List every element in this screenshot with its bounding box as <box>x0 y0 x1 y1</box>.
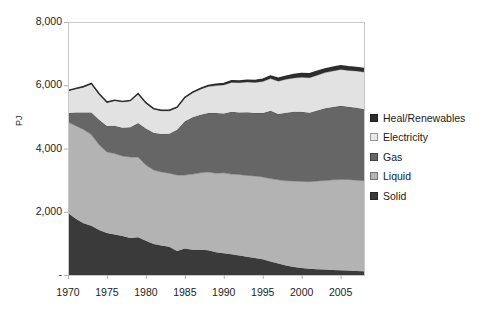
legend-item-electricity[interactable]: Electricity <box>370 128 494 148</box>
y-axis-tick-label: - <box>4 268 62 280</box>
y-axis-tick-label: 2,000 <box>4 205 62 217</box>
legend-item-solid[interactable]: Solid <box>370 186 494 206</box>
legend-item-heal-renewables[interactable]: Heal/Renewables <box>370 108 494 128</box>
x-axis-tick-label: 1985 <box>173 286 196 298</box>
y-axis-tick-label: 6,000 <box>4 78 62 90</box>
legend-swatch-icon <box>370 153 378 161</box>
y-axis-tick-label: 8,000 <box>4 15 62 27</box>
legend-swatch-icon <box>370 172 378 180</box>
legend-item-label: Gas <box>383 151 402 163</box>
legend-item-label: Electricity <box>383 131 428 143</box>
legend-item-label: Solid <box>383 190 406 202</box>
x-axis-tick-label: 2005 <box>329 286 352 298</box>
legend-item-label: Liquid <box>383 170 411 182</box>
legend-item-label: Heal/Renewables <box>383 112 465 124</box>
x-axis-tick-label: 1970 <box>56 286 79 298</box>
y-axis-tick-labels: -2,0004,0006,0008,000 <box>0 0 62 317</box>
legend-item-gas[interactable]: Gas <box>370 147 494 167</box>
x-axis-tick-label: 1975 <box>95 286 118 298</box>
chart-legend: Heal/RenewablesElectricityGasLiquidSolid <box>370 108 494 206</box>
x-axis-tick-label: 1990 <box>212 286 235 298</box>
stacked-area-chart: PJ -2,0004,0006,0008,000 Heal/Renewables… <box>0 0 494 317</box>
y-axis-tick-label: 4,000 <box>4 142 62 154</box>
x-axis-tick-label: 1980 <box>134 286 157 298</box>
x-axis-tick-label: 1995 <box>251 286 274 298</box>
legend-swatch-icon <box>370 133 378 141</box>
legend-item-liquid[interactable]: Liquid <box>370 167 494 187</box>
x-axis-tick-label: 2000 <box>290 286 313 298</box>
legend-swatch-icon <box>370 192 378 200</box>
legend-swatch-icon <box>370 114 378 122</box>
